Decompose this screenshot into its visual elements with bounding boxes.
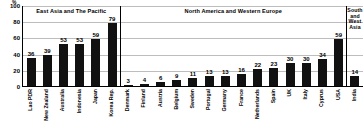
- x-tick-label: Japan: [93, 89, 98, 104]
- x-tick-label: New Zealand: [45, 89, 50, 121]
- x-label-slot: Japan: [88, 88, 104, 132]
- bar[interactable]: [302, 63, 311, 87]
- bar-slot: 79: [104, 6, 120, 87]
- x-tick-label: Belgium: [174, 89, 179, 109]
- x-label-slot: Italy: [298, 88, 314, 132]
- bar[interactable]: [318, 59, 327, 87]
- y-tick-label: 100: [10, 3, 20, 9]
- x-axis-labels: Lao PDRNew ZealandAustraliaIndonesiaJapa…: [23, 88, 363, 132]
- bar-slot: 30: [298, 6, 314, 87]
- bar-slot: 16: [233, 6, 249, 87]
- x-label-slot: New Zealand: [39, 88, 55, 132]
- x-label-slot: Denmark: [120, 88, 136, 132]
- x-label-slot: Korea Rep.: [104, 88, 120, 132]
- bar-chart: % 020406080100 East Asia and The Pacific…: [0, 0, 364, 132]
- y-tick-label: 20: [13, 68, 20, 74]
- bar-slot: 4: [136, 6, 152, 87]
- x-label-slot: Portugal: [201, 88, 217, 132]
- bar-value-label: 36: [23, 51, 39, 57]
- bar-value-label: 6: [153, 75, 169, 81]
- bar[interactable]: [27, 58, 36, 87]
- bar-slot: 11: [185, 6, 201, 87]
- bar-value-label: 53: [72, 37, 88, 43]
- bar[interactable]: [253, 69, 262, 87]
- x-label-slot: Finland: [136, 88, 152, 132]
- x-tick-label: Australia: [61, 89, 66, 111]
- bar-value-label: 34: [314, 52, 330, 58]
- bar[interactable]: [108, 23, 117, 87]
- x-tick-label: Cyprus: [320, 89, 325, 107]
- x-tick-label: Korea Rep.: [109, 89, 114, 116]
- bar-value-label: 13: [201, 69, 217, 75]
- x-axis-line: [23, 86, 363, 87]
- bar-value-label: 59: [331, 32, 347, 38]
- x-label-slot: France: [233, 88, 249, 132]
- x-tick-label: USA: [336, 89, 341, 100]
- bar[interactable]: [286, 63, 295, 87]
- y-tick-label: 40: [13, 52, 20, 58]
- bar-value-label: 3: [120, 78, 136, 84]
- y-tick-label: 60: [13, 35, 20, 41]
- bar-slot: 53: [72, 6, 88, 87]
- bar-value-label: 22: [250, 62, 266, 68]
- x-tick-label: Lao PDR: [28, 89, 33, 111]
- x-label-slot: Indonesia: [72, 88, 88, 132]
- x-tick-label: Denmark: [126, 89, 131, 111]
- x-label-slot: Belgium: [169, 88, 185, 132]
- bar-slot: 53: [55, 6, 71, 87]
- bar-value-label: 9: [169, 73, 185, 79]
- bar-slot: 39: [39, 6, 55, 87]
- bar-slot: 9: [169, 6, 185, 87]
- x-tick-label: Austria: [158, 89, 163, 107]
- x-label-slot: Spain: [266, 88, 282, 132]
- bar[interactable]: [91, 39, 100, 87]
- bar-value-label: 14: [347, 69, 363, 75]
- bar-value-label: 11: [185, 71, 201, 77]
- x-label-slot: Sweden: [185, 88, 201, 132]
- bar-slot: 13: [217, 6, 233, 87]
- bar-slot: 59: [331, 6, 347, 87]
- x-tick-label: Italy: [304, 89, 309, 99]
- x-tick-label: Germany: [223, 89, 228, 112]
- x-label-slot: Netherlands: [250, 88, 266, 132]
- bar-slot: 59: [88, 6, 104, 87]
- x-tick-label: UK: [287, 89, 292, 97]
- y-axis: % 020406080100: [0, 6, 22, 86]
- bar-slot: 3: [120, 6, 136, 87]
- x-tick-label: Sweden: [190, 89, 195, 109]
- bar[interactable]: [75, 44, 84, 87]
- bar-value-label: 39: [39, 48, 55, 54]
- x-tick-label: Indonesia: [77, 89, 82, 113]
- bar-slot: 13: [201, 6, 217, 87]
- bar[interactable]: [269, 68, 278, 87]
- bar-slot: 14: [347, 6, 363, 87]
- bar-value-label: 30: [298, 56, 314, 62]
- x-tick-label: India: [352, 89, 357, 101]
- x-label-slot: Cyprus: [314, 88, 330, 132]
- bar-slot: 30: [282, 6, 298, 87]
- x-tick-label: France: [239, 89, 244, 106]
- bar-slot: 34: [314, 6, 330, 87]
- x-label-slot: Germany: [217, 88, 233, 132]
- x-tick-label: Netherlands: [255, 89, 260, 119]
- bar-value-label: 30: [282, 56, 298, 62]
- x-tick-label: Finland: [142, 89, 147, 107]
- x-label-slot: India: [347, 88, 363, 132]
- bar-slot: 36: [23, 6, 39, 87]
- x-label-slot: UK: [282, 88, 298, 132]
- bar[interactable]: [334, 39, 343, 87]
- bar[interactable]: [59, 44, 68, 87]
- y-tick-label: 80: [13, 19, 20, 25]
- bar[interactable]: [43, 55, 52, 87]
- bar-value-label: 23: [266, 61, 282, 67]
- x-label-slot: Austria: [153, 88, 169, 132]
- bar-slot: 6: [153, 6, 169, 87]
- x-label-slot: Lao PDR: [23, 88, 39, 132]
- bar-value-label: 16: [233, 67, 249, 73]
- bar-value-label: 53: [55, 37, 71, 43]
- bar-slot: 22: [250, 6, 266, 87]
- bar-value-label: 13: [217, 69, 233, 75]
- x-label-slot: Australia: [55, 88, 71, 132]
- x-tick-label: Spain: [271, 89, 276, 103]
- x-label-slot: USA: [331, 88, 347, 132]
